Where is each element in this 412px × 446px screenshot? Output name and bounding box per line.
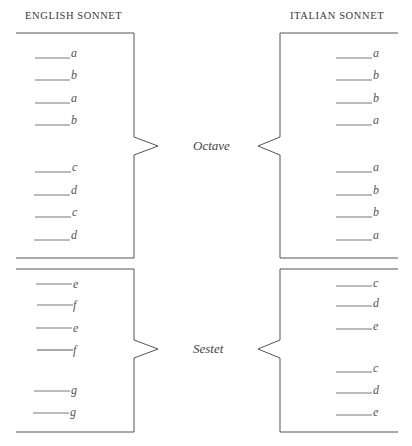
english-rhyme: e: [73, 278, 78, 290]
english-rhyme: a: [71, 47, 77, 59]
english-rhyme: g: [71, 384, 77, 396]
english-rhyme: d: [71, 229, 77, 241]
italian-rhyme: a: [373, 229, 379, 241]
italian-rhyme: e: [373, 320, 378, 332]
english-rhyme: c: [72, 206, 77, 218]
italian-octave-bracket: [258, 33, 398, 258]
sestet-label: Sestet: [193, 341, 223, 357]
italian-rhyme: e: [373, 406, 378, 418]
italian-rhyme: a: [373, 161, 379, 173]
english-rhyme: e: [73, 322, 78, 334]
english-rhyme: g: [70, 406, 76, 418]
italian-rhyme: d: [373, 297, 379, 309]
italian-rhyme: b: [373, 184, 379, 196]
english-rhyme: d: [71, 184, 77, 196]
italian-rhyme: a: [373, 114, 379, 126]
english-rhyme: b: [71, 114, 77, 126]
italian-rhyme: c: [373, 277, 378, 289]
italian-rhyme: c: [373, 362, 378, 374]
italian-rhyme: b: [373, 69, 379, 81]
italian-rhyme: b: [373, 92, 379, 104]
english-rhyme: c: [72, 161, 77, 173]
italian-rhyme: b: [373, 206, 379, 218]
english-rhyme: f: [73, 299, 76, 311]
english-rhyme: f: [73, 344, 76, 356]
italian-rhyme: d: [373, 384, 379, 396]
english-rhyme: b: [71, 69, 77, 81]
octave-label: Octave: [193, 138, 230, 154]
italian-rhyme: a: [373, 47, 379, 59]
english-octave-bracket: [16, 33, 158, 258]
bracket-diagram: [0, 0, 412, 446]
english-rhyme: a: [71, 92, 77, 104]
